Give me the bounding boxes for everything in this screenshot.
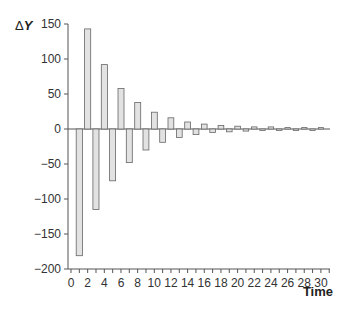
bar-t6 [118,88,124,129]
bar-t22 [252,127,258,129]
y-tick-label: 0 [54,122,61,136]
bar-t4 [101,65,107,129]
bar-t15 [193,129,199,135]
bar-t14 [185,122,191,129]
x-tick-label: 14 [181,276,195,290]
bar-t27 [293,129,298,130]
x-axis-title: Time [303,284,333,299]
x-tick-label: 24 [264,276,278,290]
bar-t5 [110,129,116,181]
bar-t16 [201,124,207,129]
x-tick-label: 4 [101,276,108,290]
x-tick-label: 2 [84,276,91,290]
x-tick-label: 22 [248,276,262,290]
bar-t12 [168,118,174,129]
bar-t24 [268,127,274,129]
y-tick-label: 150 [41,17,61,31]
bar-t30 [318,128,323,129]
bar-chart: 150100500−50−100−150−2000246810121416182… [0,0,348,318]
bar-t11 [160,129,166,142]
x-tick-label: 18 [214,276,228,290]
y-tick-label: 50 [48,87,62,101]
bar-t25 [277,129,283,130]
bar-t17 [210,129,216,133]
bar-t10 [151,112,157,129]
y-tick-label: 100 [41,52,61,66]
bar-t9 [143,129,149,150]
bar-t26 [285,128,290,129]
bars-group [68,29,330,256]
y-tick-label: −100 [34,192,61,206]
x-tick-label: 26 [281,276,295,290]
bar-t13 [176,129,182,137]
bar-t1 [76,129,82,256]
y-axis-title: ΔY [15,18,34,33]
y-tick-label: −150 [34,227,61,241]
bar-t18 [218,126,224,130]
x-tick-label: 20 [231,276,245,290]
y-tick-label: −200 [34,262,61,276]
bar-t20 [235,126,241,129]
bar-t2 [85,29,91,129]
bar-t19 [227,129,233,132]
x-tick-label: 12 [164,276,178,290]
bar-t21 [243,129,249,131]
x-tick-label: 0 [68,276,75,290]
bar-t29 [310,129,315,130]
bar-t7 [126,129,132,163]
x-tick-label: 6 [118,276,125,290]
bar-t23 [260,129,266,130]
y-tick-label: −50 [41,157,62,171]
x-tick-label: 16 [198,276,212,290]
bar-t28 [302,128,307,129]
x-tick-label: 10 [148,276,162,290]
bar-t3 [93,129,99,210]
x-tick-label: 8 [134,276,141,290]
bar-t8 [135,102,141,129]
